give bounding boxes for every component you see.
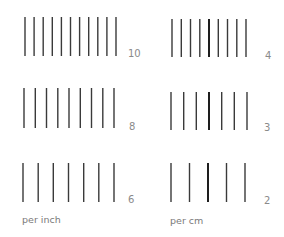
line-groups — [0, 0, 284, 237]
group-label-inch-8: 8 — [129, 122, 135, 132]
line-group-inch-6 — [23, 163, 114, 202]
line-group-cm-4 — [172, 19, 246, 57]
group-label-cm-3: 3 — [264, 123, 270, 133]
group-label-inch-6: 6 — [128, 195, 134, 205]
group-label-cm-2: 2 — [264, 196, 270, 206]
line-group-cm-3 — [171, 92, 247, 130]
caption-per-inch: per inch — [22, 215, 61, 225]
line-group-inch-8 — [24, 88, 114, 128]
line-group-inch-10 — [25, 17, 116, 56]
caption-per-cm: per cm — [170, 216, 203, 226]
line-group-cm-2 — [171, 163, 245, 202]
line-density-diagram: 1086432 per inch per cm — [0, 0, 284, 237]
group-label-inch-10: 10 — [128, 49, 141, 59]
group-label-cm-4: 4 — [265, 51, 271, 61]
